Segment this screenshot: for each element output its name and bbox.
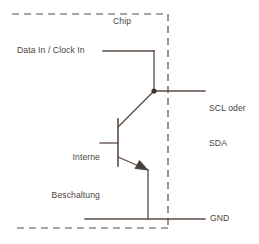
circuit-diagram: Chip Data In / Clock In SCL oder SDA Int… bbox=[0, 0, 259, 244]
internal-circuitry-label: Interne Beschaltung bbox=[34, 126, 100, 226]
internal-circuitry-label-line1: Interne bbox=[34, 151, 100, 164]
transistor-emitter-arrowhead bbox=[135, 161, 148, 171]
npn-transistor-symbol bbox=[100, 91, 154, 170]
bus-signal-label-line1: SCL oder bbox=[209, 103, 246, 115]
bus-signal-label: SCL oder SDA bbox=[209, 80, 246, 172]
internal-circuitry-label-line2: Beschaltung bbox=[34, 189, 100, 202]
chip-label: Chip bbox=[113, 16, 131, 27]
data-in-net bbox=[103, 51, 154, 91]
bus-signal-label-line2: SDA bbox=[209, 138, 246, 150]
junction-dot bbox=[151, 88, 156, 93]
data-in-label: Data In / Clock In bbox=[17, 45, 85, 56]
transistor-collector-lead bbox=[118, 91, 154, 127]
ground-label: GND bbox=[210, 213, 229, 224]
